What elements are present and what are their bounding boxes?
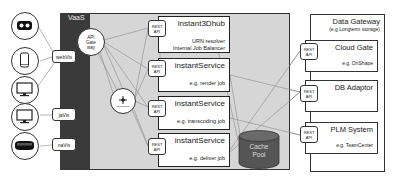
data-source-title: Cloud Gate <box>335 43 373 52</box>
data-gateway-subtitle: (e.g Longterm storage) <box>329 26 380 32</box>
service-sub2: Internal Job Balancer <box>173 45 225 51</box>
api-label: API <box>154 29 160 34</box>
api-label: API <box>306 94 312 99</box>
load-balancer: Load Balancer <box>110 88 136 114</box>
cache-pool: Cache Pool <box>238 130 280 169</box>
load-balancer-label: Load Balancer <box>117 105 130 108</box>
service-title: instant3Dhub <box>178 19 225 28</box>
load-balancer-icon <box>118 95 128 105</box>
api-gateway-line3: way <box>87 45 95 50</box>
api-label: API <box>306 135 312 140</box>
service-sub1: e.g. transcoding job <box>177 118 225 124</box>
service-title: instantService <box>175 61 225 70</box>
client-label: webVis <box>56 54 72 60</box>
data-gateway-title: Data Gateway <box>332 17 380 26</box>
client-label: jaVis <box>59 112 70 118</box>
client-navis: naVis <box>52 138 76 151</box>
cache-label-line1: Cache <box>238 143 280 151</box>
api-gateway: API Gate way <box>77 28 105 56</box>
rest-api-deliver: REST API <box>148 138 166 155</box>
client-webvis: webVis <box>52 50 76 63</box>
service-instant3dhub: instant3Dhub URN resolver Internal Job B… <box>158 16 230 53</box>
service-instantservice-transcoding: instantService e.g. transcoding job <box>158 96 230 130</box>
client-javis: jaVis <box>52 108 76 121</box>
service-sub1: URN resolver <box>192 38 225 44</box>
service-title: instantService <box>175 136 225 145</box>
cache-label-line2: Pool <box>238 151 280 159</box>
data-source-sub: e.g. TeamCenter <box>336 142 373 148</box>
service-instantservice-render: instantService e.g. render job <box>158 58 230 92</box>
rest-api-cloud-gate: REST API <box>300 43 318 60</box>
rest-api-render: REST API <box>148 60 166 77</box>
rest-api-transcoding: REST API <box>148 100 166 117</box>
data-source-sub: e.g. OnShape <box>342 60 373 66</box>
api-label: API <box>154 109 160 114</box>
rest-api-instant3dhub: REST API <box>148 20 166 37</box>
service-sub1: e.g. deliver job <box>189 155 225 161</box>
data-source-title: PLM System <box>330 125 373 134</box>
api-label: API <box>154 69 160 74</box>
service-sub1: e.g. render job <box>190 80 225 86</box>
rest-api-db-adaptor: REST API <box>300 85 318 102</box>
api-label: API <box>306 52 312 57</box>
client-label: naVis <box>58 142 70 148</box>
service-title: instantService <box>175 99 225 108</box>
api-label: API <box>154 147 160 152</box>
rest-api-plm-system: REST API <box>300 126 318 143</box>
service-instantservice-deliver: instantService e.g. deliver job <box>158 133 230 167</box>
data-source-title: DB Adaptor <box>335 83 373 92</box>
